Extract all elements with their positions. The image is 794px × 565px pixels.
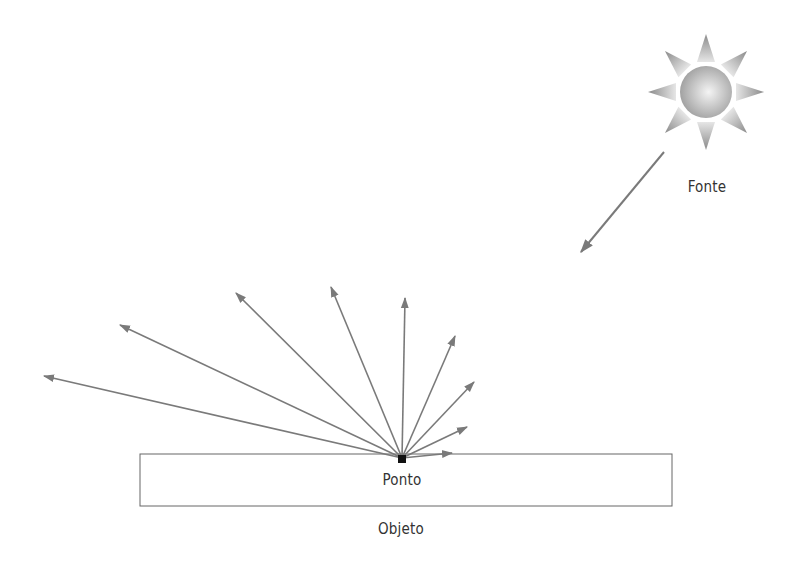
point-label: Ponto	[383, 471, 422, 489]
reflected-ray-arrow	[402, 427, 467, 458]
reflected-ray-arrow	[120, 325, 402, 458]
reflected-ray-arrow	[236, 293, 402, 458]
source-label: Fonte	[688, 178, 727, 196]
incident-ray-arrow	[581, 152, 664, 252]
reflected-rays	[44, 287, 474, 458]
reflected-ray-arrow	[402, 336, 455, 458]
object-label: Objeto	[378, 520, 424, 538]
reflected-ray-arrow	[44, 376, 402, 458]
sun-icon	[648, 34, 764, 150]
reflected-ray-arrow	[331, 287, 402, 458]
reflected-ray-arrow	[402, 298, 405, 458]
reflection-point-marker	[398, 455, 406, 463]
reflected-ray-arrow	[402, 382, 474, 458]
